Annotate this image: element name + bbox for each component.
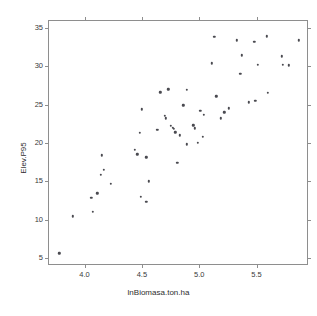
y-axis-tick (45, 220, 49, 221)
data-point (157, 129, 159, 131)
y-axis-tick (45, 143, 49, 144)
data-point (197, 142, 199, 144)
data-point (145, 156, 147, 158)
data-point (228, 107, 230, 109)
data-point (136, 153, 138, 155)
data-point (239, 73, 241, 75)
x-axis-tick (85, 264, 86, 268)
data-point (72, 215, 74, 217)
data-point (99, 174, 101, 176)
plot-panel: 51015202530354.04.55.05.5 (48, 20, 308, 265)
data-point (213, 36, 215, 38)
data-point (145, 201, 147, 203)
x-axis-title: lnBiomasa.ton.ha (0, 288, 317, 297)
x-axis-tick-top (257, 17, 258, 21)
data-point (256, 63, 258, 65)
data-point (101, 154, 103, 156)
scatter-plot-figure: 51015202530354.04.55.05.5 lnBiomasa.ton.… (0, 0, 317, 316)
data-point (282, 63, 284, 65)
data-point (199, 109, 201, 111)
y-axis-tick-label: 15 (35, 177, 43, 185)
data-point (182, 104, 184, 106)
y-axis-tick-label: 35 (35, 24, 43, 32)
x-axis-tick-label: 5.5 (251, 271, 261, 279)
data-point (266, 35, 268, 37)
x-axis-tick (142, 264, 143, 268)
data-point (134, 149, 136, 151)
data-point (298, 39, 300, 41)
y-axis-tick-label: 25 (35, 101, 43, 109)
y-axis-tick-right (307, 143, 311, 144)
data-point (148, 180, 150, 182)
data-point (253, 40, 255, 42)
data-point (159, 91, 161, 93)
y-axis-tick-right (307, 258, 311, 259)
data-point (185, 89, 187, 91)
y-axis-tick (45, 66, 49, 67)
data-point (110, 182, 112, 184)
data-point (203, 113, 205, 115)
data-point (103, 169, 105, 171)
data-point (141, 108, 143, 110)
y-axis-tick-right (307, 105, 311, 106)
data-point (138, 132, 140, 134)
y-axis-tick-label: 30 (35, 62, 43, 70)
data-point (185, 143, 187, 145)
x-axis-tick-top (85, 17, 86, 21)
y-axis-tick-right (307, 181, 311, 182)
y-axis-tick-right (307, 66, 311, 67)
y-axis-title: Elev.P95 (19, 142, 28, 173)
data-point (254, 100, 256, 102)
data-point (165, 117, 167, 119)
y-axis-tick-right (307, 220, 311, 221)
data-point (174, 131, 176, 133)
x-axis-tick (257, 264, 258, 268)
data-point (193, 127, 195, 129)
data-point (173, 128, 175, 130)
y-axis-tick (45, 258, 49, 259)
y-axis-tick (45, 181, 49, 182)
data-point (287, 64, 289, 66)
data-point (167, 88, 169, 90)
data-point (192, 124, 194, 126)
y-axis-tick-label: 5 (39, 254, 43, 262)
data-point (91, 211, 93, 213)
data-point (176, 162, 178, 164)
data-point (211, 62, 213, 64)
data-point (215, 95, 217, 97)
y-axis-tick-label: 10 (35, 216, 43, 224)
y-axis-tick-label: 20 (35, 139, 43, 147)
data-point (236, 39, 238, 41)
data-point (247, 101, 249, 103)
data-point (267, 92, 269, 94)
y-axis-tick (45, 105, 49, 106)
data-point (58, 252, 60, 254)
data-point (140, 195, 142, 197)
x-axis-tick-label: 4.5 (137, 271, 147, 279)
data-point (223, 111, 225, 113)
x-axis-tick (199, 264, 200, 268)
x-axis-tick-label: 5.0 (194, 271, 204, 279)
data-point (179, 134, 181, 136)
y-axis-tick (45, 28, 49, 29)
x-axis-tick-label: 4.0 (79, 271, 89, 279)
data-point (90, 197, 92, 199)
data-point (240, 54, 242, 56)
y-axis-tick-right (307, 28, 311, 29)
data-point (220, 117, 222, 119)
x-axis-tick-top (199, 17, 200, 21)
data-point (96, 192, 98, 194)
data-point (201, 136, 203, 138)
data-point (281, 55, 283, 57)
x-axis-tick-top (142, 17, 143, 21)
